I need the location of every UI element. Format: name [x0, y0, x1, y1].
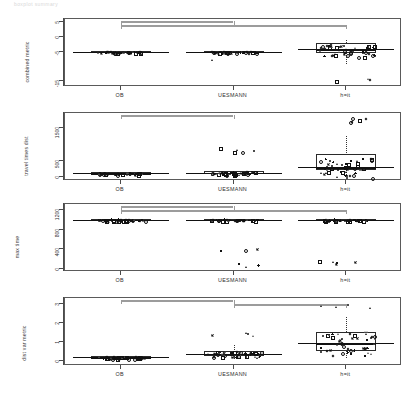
data-point — [332, 161, 334, 163]
x-tick-mark — [120, 271, 121, 275]
data-point — [327, 163, 329, 165]
data-point — [332, 354, 335, 357]
data-point — [207, 353, 209, 355]
outlier-point — [219, 147, 223, 151]
data-point — [251, 51, 255, 55]
outlier-point — [257, 265, 259, 267]
x-axis-label-2: h=it — [340, 371, 350, 377]
data-point — [117, 219, 119, 221]
significance-bracket — [121, 300, 234, 302]
data-point — [363, 56, 367, 60]
data-point — [345, 163, 347, 165]
data-point — [347, 163, 351, 167]
data-point — [352, 350, 354, 352]
data-point — [339, 220, 341, 222]
x-tick-mark — [120, 365, 121, 369]
y-tick-label: -15 — [54, 80, 60, 87]
data-point — [114, 174, 116, 176]
data-point — [348, 220, 350, 222]
data-point — [252, 353, 254, 355]
data-point — [246, 219, 248, 221]
x-tick-mark — [345, 180, 346, 184]
y-tick-label: 1200 — [54, 209, 60, 220]
data-point — [121, 173, 125, 177]
data-point — [127, 219, 131, 223]
data-point — [259, 356, 261, 358]
data-point — [250, 354, 252, 356]
data-point — [257, 353, 259, 355]
bracket-cap — [121, 300, 122, 304]
data-point — [346, 54, 350, 58]
data-point — [142, 357, 144, 359]
data-point — [141, 219, 143, 221]
data-point — [365, 333, 367, 335]
data-point — [335, 46, 339, 50]
panel-2-xaxis: OBUESMANNh=it — [64, 180, 401, 200]
panel-4-yaxis: 3210 — [28, 293, 64, 365]
data-point — [144, 220, 148, 224]
panel-1-yaxis: 50-5-15 — [28, 14, 64, 86]
outlier-point — [247, 333, 249, 335]
data-point — [346, 220, 348, 222]
y-tick-label: 0 — [54, 360, 60, 363]
data-point — [218, 352, 220, 354]
data-point — [221, 220, 225, 224]
data-point — [134, 173, 136, 175]
outlier-point — [238, 263, 240, 265]
significance-bracket — [121, 210, 347, 212]
data-point — [364, 355, 366, 357]
data-point — [100, 52, 102, 54]
data-point — [98, 173, 100, 175]
data-point — [348, 175, 351, 178]
outlier-point — [320, 305, 322, 307]
data-point — [320, 351, 322, 353]
data-point — [337, 219, 339, 221]
x-tick-mark — [345, 86, 346, 90]
outlier-point — [241, 151, 245, 155]
x-axis-label-0: OB — [115, 186, 123, 192]
data-point — [354, 47, 356, 49]
outlier-point — [332, 261, 334, 263]
data-point — [325, 158, 327, 160]
panel-travel-times: travel times dist 15005000 OBUESMANNh=it — [0, 108, 411, 204]
x-axis-label-1: UESMANN — [218, 371, 247, 377]
data-point — [133, 219, 135, 221]
data-point — [329, 349, 331, 351]
outlier-point — [336, 264, 338, 266]
data-point — [237, 355, 241, 359]
x-tick-mark — [120, 86, 121, 90]
data-point — [223, 354, 225, 356]
data-point — [346, 177, 348, 179]
data-point — [343, 45, 345, 47]
data-point — [365, 220, 367, 222]
outlier-point — [335, 306, 337, 308]
data-point — [356, 162, 360, 166]
significance-bracket — [121, 206, 234, 208]
data-point — [230, 52, 232, 54]
outlier-point — [256, 248, 258, 250]
outlier-point — [349, 121, 353, 125]
panel-4-inner — [65, 298, 400, 364]
data-point — [326, 166, 328, 168]
significance-bracket — [234, 304, 347, 306]
data-point — [223, 52, 225, 54]
data-point — [242, 51, 244, 53]
panel-2-plot-area — [64, 112, 401, 180]
data-point — [372, 46, 374, 48]
data-point — [211, 172, 215, 176]
data-point — [370, 353, 372, 355]
y-tick-label: 5 — [54, 21, 60, 24]
x-tick-mark — [233, 180, 234, 184]
panel-3-xaxis: OBUESMANNh=it — [64, 271, 401, 291]
panel-3-yaxis: 12008004000 — [28, 199, 64, 271]
data-point — [336, 163, 338, 165]
data-point — [353, 219, 355, 221]
panel-2-yaxis: 15005000 — [28, 108, 64, 180]
data-point — [120, 356, 124, 360]
x-axis-label-1: UESMANN — [218, 186, 247, 192]
data-point — [325, 172, 327, 174]
data-point — [251, 219, 253, 221]
data-point — [126, 51, 128, 53]
significance-bracket — [121, 25, 347, 27]
outlier-point — [220, 250, 222, 252]
